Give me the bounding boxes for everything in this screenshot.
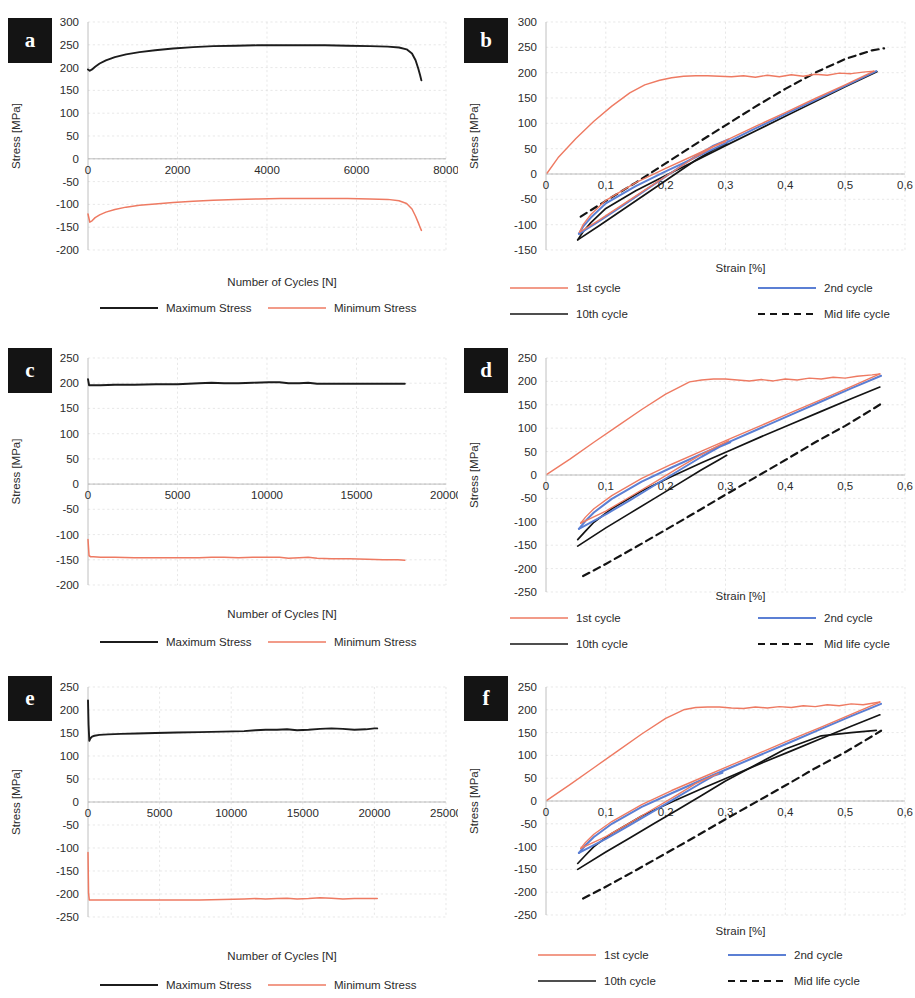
figure-grid: -200-150-100-500501001502002503000200040…	[0, 0, 915, 998]
legend-10th-cycle-label: 10th cycle	[576, 638, 628, 650]
y-tick-label: 0	[73, 478, 79, 490]
y-tick-label: 250	[518, 352, 537, 364]
panel-c: -200-150-100-500501001502002500500010000…	[0, 330, 458, 655]
x-tick-label: 0	[85, 164, 91, 176]
y-tick-label: -100	[514, 219, 537, 231]
y-tick-label: -250	[514, 909, 537, 921]
y-tick-label: -50	[520, 492, 537, 504]
x-tick-label: 0,3	[718, 179, 734, 191]
series-10th-cycle	[578, 72, 877, 240]
legend-2nd-cycle-label: 2nd cycle	[824, 282, 873, 294]
series-minimum-stress	[88, 198, 421, 230]
y-tick-label: 100	[518, 422, 537, 434]
y-tick-label: 300	[60, 16, 79, 28]
x-tick-label: 0,1	[598, 480, 614, 492]
panel-e: -250-200-150-100-50050100150200250050001…	[0, 655, 458, 998]
y-tick-label: -200	[56, 579, 79, 591]
series-10th-cycle	[578, 455, 727, 546]
legend-2nd-cycle-label: 2nd cycle	[824, 612, 873, 624]
x-tick-label: 2000	[165, 164, 191, 176]
y-tick-label: 250	[60, 352, 79, 364]
y-tick-label: -250	[56, 911, 79, 923]
series-10th-cycle	[578, 144, 727, 240]
y-tick-label: 0	[73, 796, 79, 808]
chart-e: -250-200-150-100-50050100150200250050001…	[0, 655, 458, 998]
series-10th-cycle	[578, 730, 877, 869]
y-tick-label: 200	[518, 375, 537, 387]
y-tick-label: -50	[520, 193, 537, 205]
x-tick-label: 10000	[215, 807, 247, 819]
x-tick-label: 0,6	[897, 179, 913, 191]
x-tick-label: 0	[85, 807, 91, 819]
legend-1st-cycle-label: 1st cycle	[604, 949, 649, 961]
series-maximum-stress	[88, 379, 405, 385]
legend-mid-life-cycle-label: Mid life cycle	[824, 638, 890, 650]
x-axis-title: Number of Cycles [N]	[227, 608, 336, 620]
y-tick-label: 0	[73, 153, 79, 165]
panel-tag-e: e	[8, 676, 52, 721]
x-tick-label: 0	[543, 480, 549, 492]
series-maximum-stress	[88, 45, 421, 80]
y-tick-label: 100	[60, 750, 79, 762]
series-2nd-cycle	[579, 376, 881, 529]
y-axis-title: Stress [MPa]	[468, 103, 480, 169]
x-tick-label: 0,1	[598, 806, 614, 818]
y-tick-label: -250	[514, 586, 537, 598]
legend-maximum-stress-label: Maximum Stress	[166, 636, 252, 648]
chart-a: -200-150-100-500501001502002503000200040…	[0, 0, 458, 330]
panel-tag-b: b	[464, 18, 508, 63]
y-tick-label: -100	[514, 516, 537, 528]
y-tick-label: 100	[60, 428, 79, 440]
y-tick-label: 100	[518, 117, 537, 129]
y-tick-label: -100	[56, 198, 79, 210]
y-tick-label: 250	[518, 681, 537, 693]
x-tick-label: 20000	[430, 489, 458, 501]
legend-minimum-stress-label: Minimum Stress	[334, 979, 417, 991]
x-axis-title: Strain [%]	[716, 262, 766, 274]
panel-b: -150-100-5005010015020025030000,10,20,30…	[458, 0, 915, 330]
x-tick-label: 0,6	[897, 480, 913, 492]
chart-b: -150-100-5005010015020025030000,10,20,30…	[458, 0, 915, 330]
x-tick-label: 4000	[254, 164, 280, 176]
y-tick-label: 200	[518, 704, 537, 716]
y-axis-title: Stress [MPa]	[10, 769, 22, 835]
series-1st-cycle	[547, 702, 880, 800]
y-tick-label: -50	[62, 819, 79, 831]
y-tick-label: -100	[56, 529, 79, 541]
y-tick-label: 50	[66, 130, 79, 142]
x-tick-label: 15000	[341, 489, 373, 501]
x-tick-label: 0	[543, 179, 549, 191]
x-tick-label: 6000	[344, 164, 370, 176]
x-tick-label: 0,4	[777, 480, 794, 492]
legend-minimum-stress-label: Minimum Stress	[334, 636, 417, 648]
panel-f: -250-200-150-100-5005010015020025000,10,…	[458, 655, 915, 998]
y-tick-label: -150	[56, 554, 79, 566]
panel-d: -250-200-150-100-5005010015020025000,10,…	[458, 330, 915, 655]
y-tick-label: 200	[60, 377, 79, 389]
series-1st-cycle	[547, 71, 874, 173]
y-tick-label: 50	[66, 773, 79, 785]
chart-f: -250-200-150-100-5005010015020025000,10,…	[458, 655, 915, 998]
y-tick-label: 50	[66, 453, 79, 465]
legend-maximum-stress-label: Maximum Stress	[166, 979, 252, 991]
x-tick-label: 0,5	[837, 806, 853, 818]
y-tick-label: 0	[531, 168, 537, 180]
legend-2nd-cycle-label: 2nd cycle	[794, 949, 843, 961]
legend-1st-cycle-label: 1st cycle	[576, 282, 621, 294]
y-tick-label: -50	[62, 503, 79, 515]
y-tick-label: 0	[531, 795, 537, 807]
y-tick-label: -150	[514, 244, 537, 256]
y-tick-label: 250	[518, 41, 537, 53]
chart-d: -250-200-150-100-5005010015020025000,10,…	[458, 330, 915, 655]
x-tick-label: 0	[85, 489, 91, 501]
panel-a: -200-150-100-500501001502002503000200040…	[0, 0, 458, 330]
y-tick-label: 150	[518, 399, 537, 411]
x-tick-label: 0,5	[837, 179, 853, 191]
x-tick-label: 8000	[433, 164, 458, 176]
y-tick-label: -150	[514, 539, 537, 551]
y-tick-label: -100	[56, 842, 79, 854]
y-tick-label: 0	[531, 469, 537, 481]
y-tick-label: -200	[514, 563, 537, 575]
y-tick-label: 250	[60, 39, 79, 51]
legend-mid-life-cycle-label: Mid life cycle	[794, 975, 860, 987]
